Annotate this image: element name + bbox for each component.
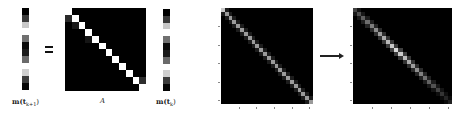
matrix-cell xyxy=(85,49,92,56)
matrix-cell xyxy=(106,43,113,50)
matrix-cell xyxy=(126,63,133,70)
matrix-cell xyxy=(112,77,119,84)
matrix-cell xyxy=(133,15,140,22)
matrix-cell xyxy=(139,15,146,22)
matrix-cell xyxy=(65,8,72,15)
matrix-cell xyxy=(65,77,72,84)
tick-mark xyxy=(429,107,430,109)
matrix-cell xyxy=(309,100,313,104)
label-A: A xyxy=(100,97,105,105)
matrix-cell xyxy=(72,43,79,50)
matrix-cell xyxy=(126,29,133,36)
vector-cell xyxy=(22,15,29,22)
matrix-cell xyxy=(72,63,79,70)
matrix-cell xyxy=(119,56,126,63)
matrix-cell xyxy=(112,22,119,29)
matrix-cell xyxy=(72,56,79,63)
matrix-cell xyxy=(133,49,140,56)
matrix-cell xyxy=(65,84,72,91)
matrix-cell xyxy=(112,29,119,36)
matrix-cell xyxy=(133,43,140,50)
matrix-cell xyxy=(72,84,79,91)
matrix-cell xyxy=(79,70,86,77)
matrix-cell xyxy=(119,8,126,15)
vector-cell xyxy=(163,64,170,71)
tick-mark xyxy=(391,107,392,109)
matrix-cell xyxy=(139,70,146,77)
vector-cell xyxy=(163,84,170,91)
matrix-cell xyxy=(72,77,79,84)
matrix-cell xyxy=(119,22,126,29)
matrix-cell xyxy=(85,29,92,36)
vector-cell xyxy=(163,57,170,64)
matrix-cell xyxy=(92,43,99,50)
matrix-cell xyxy=(99,77,106,84)
matrix-cell xyxy=(126,36,133,43)
matrix-cell xyxy=(126,56,133,63)
matrix-cell xyxy=(79,8,86,15)
tick-mark xyxy=(218,82,220,83)
vector-cell xyxy=(163,16,170,23)
vector-m-tk xyxy=(163,9,170,91)
tick-mark xyxy=(350,82,352,83)
matrix-cell xyxy=(99,36,106,43)
matrix-cell xyxy=(99,49,106,56)
vector-cell xyxy=(22,76,29,83)
matrix-cell xyxy=(133,29,140,36)
matrix-cell xyxy=(65,63,72,70)
matrix-cell xyxy=(79,15,86,22)
matrix-cell xyxy=(106,77,113,84)
vector-cell xyxy=(163,9,170,16)
equals-sign xyxy=(45,46,53,53)
matrix-cell xyxy=(112,43,119,50)
matrix-cell xyxy=(92,15,99,22)
label-m-tk1: m(tk+1) xyxy=(12,97,39,107)
matrix-cell xyxy=(72,36,79,43)
tick-mark xyxy=(372,107,373,109)
matrix-cell xyxy=(99,84,106,91)
matrix-cell xyxy=(92,56,99,63)
matrix-cell xyxy=(85,36,92,43)
matrix-cell xyxy=(112,15,119,22)
matrix-cell xyxy=(448,100,452,104)
matrix-cell xyxy=(133,36,140,43)
matrix-cell xyxy=(112,49,119,56)
matrix-cell xyxy=(126,77,133,84)
matrix-cell xyxy=(79,56,86,63)
matrix-cell xyxy=(92,22,99,29)
vector-cell xyxy=(22,42,29,49)
matrix-cell xyxy=(85,15,92,22)
matrix-cell xyxy=(79,77,86,84)
matrix-cell xyxy=(92,8,99,15)
tick-mark xyxy=(292,107,293,109)
matrix-cell xyxy=(119,49,126,56)
matrix-cell xyxy=(112,63,119,70)
matrix-cell xyxy=(72,49,79,56)
tick-mark xyxy=(218,100,220,101)
matrix-cell xyxy=(112,56,119,63)
matrix-cell xyxy=(92,36,99,43)
matrix-cell xyxy=(72,15,79,22)
vector-cell xyxy=(163,77,170,84)
vector-cell xyxy=(22,35,29,42)
vector-cell xyxy=(22,28,29,35)
matrix-cell xyxy=(106,36,113,43)
matrix-cell xyxy=(92,49,99,56)
matrix-cell xyxy=(112,36,119,43)
matrix-cell xyxy=(119,84,126,91)
matrix-cell xyxy=(139,8,146,15)
matrix-cell xyxy=(85,43,92,50)
matrix-cell xyxy=(133,84,140,91)
tick-mark xyxy=(350,45,352,46)
matrix-cell xyxy=(79,63,86,70)
tick-mark xyxy=(448,107,449,109)
matrix-cell xyxy=(133,77,140,84)
matrix-cell xyxy=(92,84,99,91)
tick-mark xyxy=(309,107,310,109)
tick-mark xyxy=(256,107,257,109)
matrix-cell xyxy=(92,70,99,77)
matrix-cell xyxy=(106,8,113,15)
matrix-cell xyxy=(99,43,106,50)
vector-m-tk1 xyxy=(22,8,29,90)
matrix-cell xyxy=(139,36,146,43)
